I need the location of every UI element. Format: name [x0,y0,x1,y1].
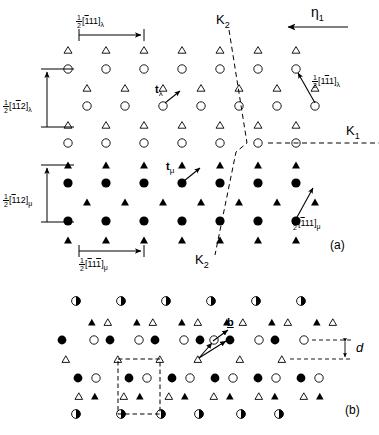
dimension-half-1bar11bar-mu [79,245,144,257]
open-triangle-row [83,85,319,92]
circle-pair-row-lower [74,374,324,383]
k2-twin-boundary-line [215,30,247,255]
half-circle-row-bottom [72,410,284,419]
open-triangle-row-mid [62,356,286,363]
dimension-half-1bar12-mu [41,165,74,222]
half-1bar11-mu-vector [296,188,313,219]
miller-label-half-11bar1-lambda: 12[111]λ [312,74,340,90]
t-lambda-vector [165,91,180,103]
open-circle-row [83,102,319,110]
eta1-label: η1 [311,5,324,23]
miller-label-half-1bar11-lambda: 12[111]λ [76,14,104,30]
panel-b-lattice [58,297,352,419]
k1-label: K1 [346,124,360,141]
burgers-vector-label: b [227,317,234,328]
open-triangle-row [64,47,300,54]
dimension-half-1bar11-lambda [79,29,144,41]
triangle-pair-row [88,319,337,326]
t-mu-label: tμ [166,161,174,175]
filled-triangle-row [64,161,300,168]
panel-a-mu-lattice [63,161,319,243]
filled-triangle-row [64,236,300,243]
panel-b-label: (b) [345,404,360,416]
unit-cell-box [118,359,160,414]
k2-top-label: K2 [216,13,230,30]
circle-pair-row-upper [58,336,309,345]
dimension-half-11bar2-lambda [41,69,74,127]
half-circle-row [72,297,306,306]
d-spacing-label: d [356,341,363,354]
t-mu-vector [184,168,200,181]
k2-bottom-label: K2 [195,253,209,270]
filled-circle-row [63,216,300,225]
burgers-vector [199,330,228,358]
miller-label-half-1bar11bar-mu: 12[111]μ [79,257,108,273]
miller-label-half-11bar2-lambda: 12[112]λ [3,99,32,115]
open-circle-row [64,139,300,147]
lattice-overlay [0,0,379,435]
miller-label-half-1bar12-mu: 12[112]μ [3,193,32,209]
filled-triangle-row [83,198,319,205]
miller-label-half-1bar11-mu: 12[111]μ [292,216,321,232]
triangle-pair-row-lower [75,393,324,400]
crystallography-figure: 12[111]λ 12[112]λ 12[111]λ 12[112]μ 12[1… [0,0,379,435]
d-spacing-indicator [290,340,352,359]
filled-circle-row [63,178,300,187]
open-circle-row [64,65,300,73]
panel-a-label: (a) [330,239,345,251]
open-triangle-row [64,122,300,129]
panel-a-lambda-lattice [64,47,319,148]
t-lambda-label: tλ [155,84,163,98]
